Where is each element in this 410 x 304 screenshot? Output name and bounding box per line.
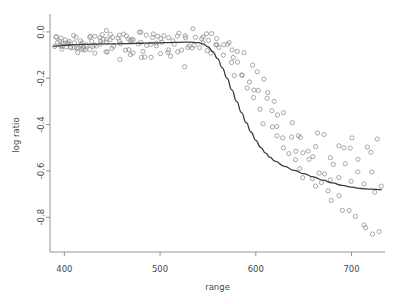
data-point xyxy=(326,189,330,193)
data-point xyxy=(322,172,326,176)
data-point xyxy=(373,190,377,194)
data-point xyxy=(229,60,233,64)
data-point xyxy=(290,135,294,139)
data-point xyxy=(169,54,173,58)
data-point xyxy=(197,46,201,50)
data-point xyxy=(270,125,274,129)
data-point xyxy=(144,33,148,37)
data-point xyxy=(182,65,186,69)
scatter-plot: 0.0-0.2-0.4-0.6-0.8400500600700rangelog … xyxy=(0,0,410,304)
data-point xyxy=(232,73,236,77)
data-point xyxy=(298,167,302,171)
data-point xyxy=(379,184,383,188)
data-point xyxy=(235,49,239,53)
data-point xyxy=(265,96,269,100)
loess-fit-line xyxy=(54,42,381,190)
data-point xyxy=(311,155,315,159)
data-point xyxy=(375,137,379,141)
data-point xyxy=(322,132,326,136)
data-point xyxy=(193,35,197,39)
data-point xyxy=(290,121,294,125)
data-point xyxy=(306,149,310,153)
data-point xyxy=(356,157,360,161)
data-point xyxy=(328,178,332,182)
data-point xyxy=(158,52,162,56)
data-point xyxy=(256,88,260,92)
data-point xyxy=(204,32,208,36)
data-point xyxy=(331,162,335,166)
data-point xyxy=(356,170,360,174)
chart-container: 0.0-0.2-0.4-0.6-0.8400500600700rangelog … xyxy=(0,0,410,304)
data-point xyxy=(166,48,170,52)
data-point xyxy=(353,214,357,218)
data-point xyxy=(141,49,145,53)
data-point xyxy=(221,53,225,57)
data-point xyxy=(245,86,249,90)
data-point xyxy=(281,111,285,115)
data-point xyxy=(313,184,317,188)
y-axis-tick-label: 0.0 xyxy=(36,25,46,39)
data-point xyxy=(317,171,321,175)
data-point xyxy=(294,149,298,153)
data-point xyxy=(231,55,235,59)
data-point xyxy=(258,107,262,111)
data-point xyxy=(370,170,374,174)
data-point xyxy=(307,157,311,161)
x-axis-tick-label: 700 xyxy=(343,264,359,274)
data-point xyxy=(328,156,332,160)
data-point xyxy=(167,36,171,40)
data-point xyxy=(281,146,285,150)
data-point xyxy=(272,99,276,103)
data-point xyxy=(255,70,259,74)
data-point xyxy=(337,175,341,179)
data-point xyxy=(275,113,279,117)
data-point xyxy=(206,38,210,42)
data-point xyxy=(270,109,274,113)
data-point xyxy=(329,198,333,202)
data-point xyxy=(104,28,108,32)
data-point xyxy=(369,150,373,154)
data-point xyxy=(362,182,366,186)
y-axis-tick-label: -0.4 xyxy=(36,116,46,133)
data-point xyxy=(210,31,214,35)
data-point xyxy=(266,90,270,94)
y-axis-tick-label: -0.2 xyxy=(36,70,46,87)
data-point xyxy=(252,95,256,99)
x-axis-tick-label: 500 xyxy=(152,264,168,274)
data-point xyxy=(275,124,279,128)
data-point xyxy=(350,136,354,140)
data-point xyxy=(100,33,104,37)
data-point xyxy=(349,179,353,183)
data-point xyxy=(342,146,346,150)
x-axis-title: range xyxy=(205,282,230,292)
data-point xyxy=(275,134,279,138)
data-point xyxy=(118,57,122,61)
data-point xyxy=(235,60,239,64)
data-point xyxy=(93,34,97,38)
data-point xyxy=(252,88,256,92)
y-axis-tick-label: -0.6 xyxy=(36,163,46,180)
data-point xyxy=(301,176,305,180)
data-point xyxy=(149,55,153,59)
data-point xyxy=(348,146,352,150)
data-point xyxy=(347,208,351,212)
data-point xyxy=(337,194,341,198)
data-point xyxy=(337,144,341,148)
data-point xyxy=(191,27,195,31)
data-point xyxy=(370,232,374,236)
data-point xyxy=(145,43,149,47)
data-point xyxy=(179,48,183,52)
data-point xyxy=(230,48,234,52)
data-point xyxy=(281,136,285,140)
y-axis-tick-label: -0.8 xyxy=(36,209,46,226)
data-point xyxy=(76,51,80,55)
data-point xyxy=(314,144,318,148)
data-point xyxy=(287,151,291,155)
data-point xyxy=(377,229,381,233)
data-point xyxy=(301,151,305,155)
data-point xyxy=(215,36,219,40)
data-point xyxy=(247,80,251,84)
data-point xyxy=(319,180,323,184)
data-point xyxy=(293,158,297,162)
data-point xyxy=(250,63,254,67)
